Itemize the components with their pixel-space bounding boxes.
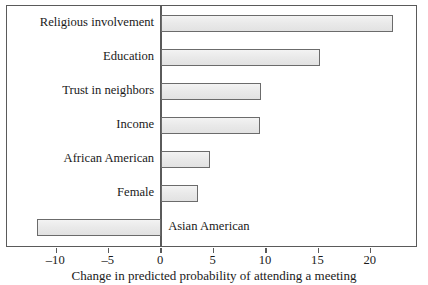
bar bbox=[37, 219, 161, 236]
x-tick-mark bbox=[160, 248, 161, 253]
bar bbox=[161, 15, 393, 32]
x-tick-mark bbox=[108, 248, 109, 253]
category-label: Income bbox=[0, 116, 154, 133]
category-label: Trust in neighbors bbox=[0, 82, 154, 99]
category-label: Religious involvement bbox=[0, 14, 154, 31]
bar-chart-figure: Change in predicted probability of atten… bbox=[0, 0, 428, 285]
x-tick-label: 5 bbox=[209, 253, 215, 267]
x-tick-mark bbox=[370, 248, 371, 253]
x-tick-mark bbox=[56, 248, 57, 253]
x-tick-label: 10 bbox=[259, 253, 272, 267]
x-axis-title: Change in predicted probability of atten… bbox=[0, 268, 428, 284]
x-tick-mark bbox=[265, 248, 266, 253]
x-tick-label: 15 bbox=[311, 253, 324, 267]
bar bbox=[161, 83, 261, 100]
category-label: Education bbox=[0, 48, 154, 65]
x-tick-label: –5 bbox=[101, 253, 114, 267]
bar bbox=[161, 117, 260, 134]
bar bbox=[161, 49, 320, 66]
x-tick-mark bbox=[213, 248, 214, 253]
bar bbox=[161, 151, 210, 168]
x-tick-label: 20 bbox=[364, 253, 377, 267]
x-tick-mark bbox=[318, 248, 319, 253]
category-label: African American bbox=[0, 150, 154, 167]
category-label: Female bbox=[0, 184, 154, 201]
category-label: Asian American bbox=[168, 218, 249, 235]
bar bbox=[161, 185, 198, 202]
x-tick-label: 0 bbox=[157, 253, 163, 267]
x-tick-label: –10 bbox=[46, 253, 65, 267]
